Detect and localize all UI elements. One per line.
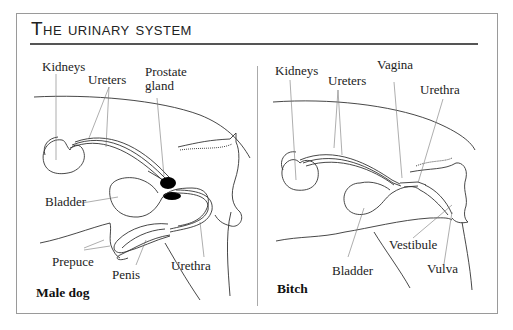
- female-bladder: [344, 183, 420, 215]
- caption-male-dog: Male dog: [36, 285, 90, 301]
- label-female-ureters: Ureters: [328, 74, 366, 88]
- label-prostate-line1: Prostate: [145, 65, 187, 79]
- label-vestibule: Vestibule: [389, 238, 437, 252]
- anatomy-illustration: [0, 0, 513, 330]
- caption-bitch: Bitch: [277, 281, 308, 297]
- male-bladder: [110, 188, 209, 226]
- bitch-drawing: [273, 80, 475, 290]
- label-male-ureters: Ureters: [88, 73, 126, 87]
- label-penis: Penis: [112, 268, 140, 282]
- label-male-urethra: Urethra: [171, 259, 211, 273]
- label-female-bladder: Bladder: [332, 264, 373, 278]
- label-prepuce: Prepuce: [52, 255, 94, 269]
- label-female-kidneys: Kidneys: [275, 64, 318, 78]
- label-vulva: Vulva: [427, 262, 458, 276]
- label-male-bladder: Bladder: [45, 195, 86, 209]
- label-female-urethra: Urethra: [420, 83, 460, 97]
- label-vagina: Vagina: [377, 58, 413, 72]
- label-male-kidneys: Kidneys: [42, 60, 85, 74]
- label-prostate-line2: gland: [145, 79, 174, 93]
